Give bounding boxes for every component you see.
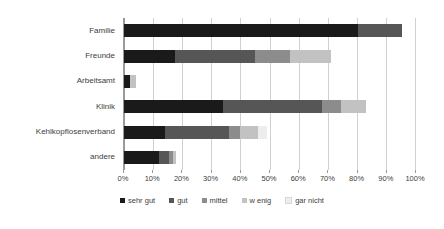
legend-item-gar-nicht[interactable]: gar nicht (285, 196, 324, 205)
category-label-andere: andere (90, 152, 115, 162)
x-tick-label-80pct: 80% (349, 174, 364, 183)
x-tick-label-0pct: 0% (118, 174, 129, 183)
bar-row-freunde[interactable] (124, 50, 415, 63)
x-tick-label-10pct: 10% (145, 174, 160, 183)
legend-swatch-icon (285, 197, 292, 204)
bar-segment-sehr-gut[interactable] (124, 50, 175, 63)
bar-stack (124, 24, 415, 37)
x-tick-label-20pct: 20% (174, 174, 189, 183)
x-tick-label-30pct: 30% (203, 174, 218, 183)
bar-segment-sehr-gut[interactable] (124, 126, 165, 139)
legend-label: gar nicht (295, 196, 324, 205)
legend-label: gut (177, 196, 187, 205)
bar-stack (124, 100, 415, 113)
x-tick-mark (240, 170, 241, 173)
x-tick-mark (357, 170, 358, 173)
legend-label: sehr gut (128, 196, 155, 205)
bar-row-klinik[interactable] (124, 100, 415, 113)
legend-item-gut[interactable]: gut (169, 196, 187, 205)
bar-segment-mittel[interactable] (255, 50, 290, 63)
chart-container: FamilieFreundeArbeitsamtKlinikKehlkopflo… (0, 0, 444, 229)
bar-rows (124, 18, 415, 170)
legend-label: w enig (250, 196, 272, 205)
legend-label: mittel (210, 196, 228, 205)
category-label-familie: Familie (89, 26, 115, 36)
bar-stack (124, 151, 415, 164)
bar-segment-gut[interactable] (159, 151, 169, 164)
x-tick-label-40pct: 40% (232, 174, 247, 183)
x-tick-label-90pct: 90% (378, 174, 393, 183)
x-tick-mark (327, 170, 328, 173)
bar-segment-w-enig[interactable] (290, 50, 331, 63)
x-tick-mark (415, 170, 416, 173)
legend-item-w-enig[interactable]: w enig (242, 196, 272, 205)
x-tick-label-60pct: 60% (291, 174, 306, 183)
x-tick-mark (269, 170, 270, 173)
x-tick-mark (211, 170, 212, 173)
bar-row-kehlkopflosenverband[interactable] (124, 126, 415, 139)
category-label-freunde: Freunde (85, 51, 115, 61)
bar-segment-mittel[interactable] (229, 126, 241, 139)
x-axis: 0%10%20%30%40%50%60%70%80%90%100% (123, 170, 415, 186)
x-tick-mark (386, 170, 387, 173)
legend-swatch-icon (120, 198, 125, 203)
x-tick-label-70pct: 70% (320, 174, 335, 183)
category-label-arbeitsamt: Arbeitsamt (77, 76, 115, 86)
bar-segment-gut[interactable] (223, 100, 322, 113)
legend-swatch-icon (242, 198, 247, 203)
bar-segment-sehr-gut[interactable] (124, 100, 223, 113)
legend-swatch-icon (202, 198, 207, 203)
bar-row-andere[interactable] (124, 151, 415, 164)
x-tick-mark (123, 170, 124, 173)
legend-item-sehr-gut[interactable]: sehr gut (120, 196, 155, 205)
bar-segment-sehr-gut[interactable] (124, 151, 159, 164)
x-tick-label-50pct: 50% (261, 174, 276, 183)
bar-segment-w-enig[interactable] (173, 151, 176, 164)
category-label-klinik: Klinik (96, 102, 115, 112)
bar-segment-sehr-gut[interactable] (124, 24, 358, 37)
x-tick-mark (181, 170, 182, 173)
bar-segment-gut[interactable] (358, 24, 402, 37)
bar-segment-w-enig[interactable] (240, 126, 257, 139)
plot-area (123, 18, 415, 170)
bar-stack (124, 50, 415, 63)
bar-segment-mittel[interactable] (322, 100, 341, 113)
bar-segment-gut[interactable] (175, 50, 255, 63)
bar-segment-w-enig[interactable] (341, 100, 366, 113)
x-tick-mark (298, 170, 299, 173)
bar-row-arbeitsamt[interactable] (124, 75, 415, 88)
y-axis-category-labels: FamilieFreundeArbeitsamtKlinikKehlkopflo… (0, 18, 119, 170)
bar-segment-w-enig[interactable] (130, 75, 136, 88)
category-label-kehlkopflosenverband: Kehlkopflosenverband (36, 127, 115, 137)
legend-swatch-icon (169, 198, 174, 203)
chart-legend: sehr gutgutmittelw eniggar nicht (0, 196, 444, 205)
x-tick-mark (152, 170, 153, 173)
bar-row-familie[interactable] (124, 24, 415, 37)
bar-stack (124, 75, 415, 88)
gridline-100pct (415, 18, 416, 170)
bar-segment-gut[interactable] (165, 126, 229, 139)
legend-item-mittel[interactable]: mittel (202, 196, 228, 205)
x-tick-label-100pct: 100% (405, 174, 424, 183)
bar-segment-gar-nicht[interactable] (258, 126, 267, 139)
bar-stack (124, 126, 415, 139)
